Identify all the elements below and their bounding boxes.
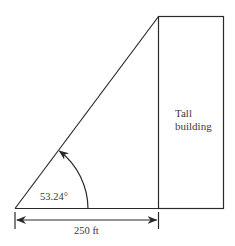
distance-label: 250 ft: [74, 225, 99, 236]
building-angle-diagram: Tall building 53.24° 250 ft: [0, 0, 235, 246]
angle-label: 53.24°: [40, 191, 68, 202]
building-label-line2: building: [175, 120, 212, 132]
line-of-sight: [15, 17, 159, 209]
building-label-line1: Tall: [175, 107, 192, 119]
